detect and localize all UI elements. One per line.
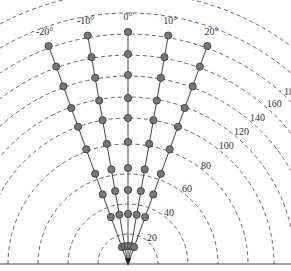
grid-node <box>108 166 115 173</box>
grid-node <box>83 146 90 153</box>
grid-node <box>124 164 131 171</box>
range-arc <box>0 13 291 264</box>
range-label: 100 <box>219 140 234 151</box>
grid-node <box>88 54 95 61</box>
range-label: 140 <box>250 112 265 123</box>
grid-node <box>45 42 52 49</box>
grid-node <box>96 97 103 104</box>
range-arc <box>0 55 291 264</box>
grid-node <box>204 42 211 49</box>
range-label: 40 <box>164 207 174 218</box>
angle-ray <box>88 36 128 264</box>
grid-node <box>53 63 60 70</box>
angle-label: -20° <box>36 26 53 37</box>
range-label: 120 <box>234 126 249 137</box>
grid-node <box>174 123 181 130</box>
angle-ray <box>128 46 207 264</box>
grid-node <box>68 104 75 111</box>
grid-node <box>124 94 131 101</box>
grid-node <box>99 117 106 124</box>
angle-label: 10° <box>163 15 177 26</box>
grid-node <box>141 166 148 173</box>
angle-label: -10° <box>77 15 94 26</box>
grid-node <box>124 28 131 35</box>
range-arc <box>0 34 291 264</box>
grid-node <box>150 191 157 198</box>
grid-node <box>153 97 160 104</box>
angle-ray <box>49 46 128 264</box>
grid-node <box>150 117 157 124</box>
grid-node <box>165 32 172 39</box>
angle-label: 0° <box>124 11 133 22</box>
range-label: 180 <box>284 86 291 97</box>
grid-node <box>116 211 123 218</box>
angle-ray <box>128 36 168 264</box>
grid-node <box>103 140 110 147</box>
grid-node <box>99 191 106 198</box>
range-label: 80 <box>201 160 211 171</box>
grid-node <box>124 186 131 193</box>
polar-diagram: 20406080100120140160180200230 -20°-10°0°… <box>0 0 291 271</box>
grid-node <box>124 114 131 121</box>
grid-node <box>92 170 99 177</box>
grid-node <box>124 50 131 57</box>
grid-node <box>142 213 149 220</box>
grid-node <box>146 140 153 147</box>
grid-node <box>92 74 99 81</box>
grid-node <box>133 211 140 218</box>
grid-node <box>131 243 138 250</box>
grid-node <box>181 104 188 111</box>
origin-marker <box>125 258 131 266</box>
grid-node <box>124 71 131 78</box>
grid-node <box>196 63 203 70</box>
grid-node <box>124 210 131 217</box>
grid-node <box>74 123 81 130</box>
grid-node <box>60 83 67 90</box>
angle-label: 20° <box>204 26 218 37</box>
range-arc <box>0 97 291 264</box>
grid-node <box>166 146 173 153</box>
grid-node <box>161 54 168 61</box>
angle-rays <box>49 32 208 264</box>
grid-node <box>107 213 114 220</box>
grid-node <box>137 188 144 195</box>
grid-node <box>124 138 131 145</box>
grid-node <box>112 188 119 195</box>
grid-node <box>157 74 164 81</box>
grid-node <box>157 170 164 177</box>
grid-node <box>189 83 196 90</box>
range-label: 160 <box>267 98 282 109</box>
grid-node <box>84 32 91 39</box>
range-label: 60 <box>182 183 192 194</box>
range-label: 20 <box>147 232 157 243</box>
